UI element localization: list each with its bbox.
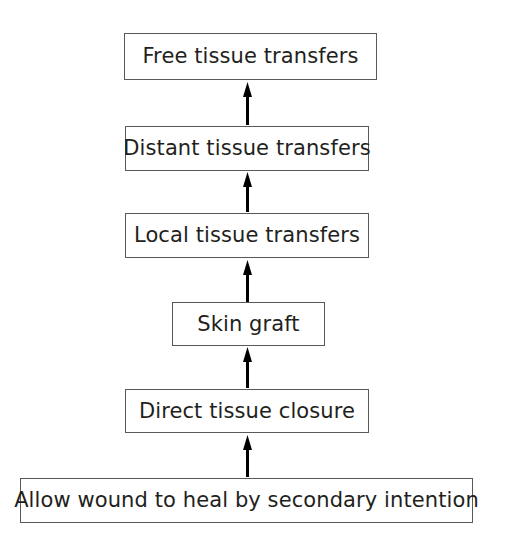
node-label: Free tissue transfers bbox=[142, 46, 358, 67]
node-secondary-intention: Allow wound to heal by secondary intenti… bbox=[20, 478, 473, 523]
reconstructive-ladder-diagram: Free tissue transfers Distant tissue tra… bbox=[0, 0, 510, 546]
arrow-secondary-intention-to-direct-closure-icon bbox=[242, 435, 253, 477]
node-label: Distant tissue transfers bbox=[123, 138, 370, 159]
node-local-tissue-transfers: Local tissue transfers bbox=[125, 213, 369, 258]
node-label: Skin graft bbox=[197, 314, 299, 335]
arrow-skin-graft-to-local-icon bbox=[242, 260, 253, 302]
node-direct-tissue-closure: Direct tissue closure bbox=[125, 389, 369, 433]
arrow-direct-closure-to-skin-graft-icon bbox=[242, 347, 253, 388]
arrow-distant-to-free-icon bbox=[242, 82, 253, 125]
node-label: Direct tissue closure bbox=[139, 401, 355, 422]
node-label: Allow wound to heal by secondary intenti… bbox=[14, 490, 479, 511]
node-distant-tissue-transfers: Distant tissue transfers bbox=[125, 126, 369, 171]
arrow-local-to-distant-icon bbox=[242, 172, 253, 212]
node-label: Local tissue transfers bbox=[134, 225, 360, 246]
node-free-tissue-transfers: Free tissue transfers bbox=[124, 33, 377, 80]
node-skin-graft: Skin graft bbox=[172, 302, 325, 346]
